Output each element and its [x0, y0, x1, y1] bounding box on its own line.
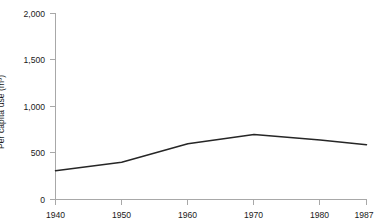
y-axis-ticks	[50, 14, 56, 200]
x-tick-label-1980: 1980	[310, 210, 329, 220]
line-chart: Per capita use (m³) 0 500 1,000 1,500 2,…	[0, 0, 379, 224]
y-axis: 0 500 1,000 1,500 2,000	[23, 9, 55, 205]
y-tick-label-2000: 2,000	[23, 9, 45, 19]
y-tick-label-1000: 1,000	[23, 102, 45, 112]
x-tick-label-1940: 1940	[46, 210, 65, 220]
y-tick-label-500: 500	[31, 148, 46, 158]
x-axis-ticks	[56, 200, 367, 206]
x-tick-label-1970: 1970	[244, 210, 263, 220]
x-tick-label-1960: 1960	[178, 210, 197, 220]
data-series-line	[56, 134, 367, 170]
y-tick-label-1500: 1,500	[23, 55, 45, 65]
x-axis-tick-labels: 1940 1950 1960 1970 1980 1987	[46, 210, 374, 220]
x-tick-label-1950: 1950	[112, 210, 131, 220]
y-axis-tick-labels: 0 500 1,000 1,500 2,000	[23, 9, 45, 205]
y-tick-label-0: 0	[40, 195, 45, 205]
x-axis: 1940 1950 1960 1970 1980 1987	[46, 200, 374, 221]
x-tick-label-1987: 1987	[354, 210, 373, 220]
chart-canvas: 0 500 1,000 1,500 2,000 1940 1950 1960	[0, 0, 379, 224]
